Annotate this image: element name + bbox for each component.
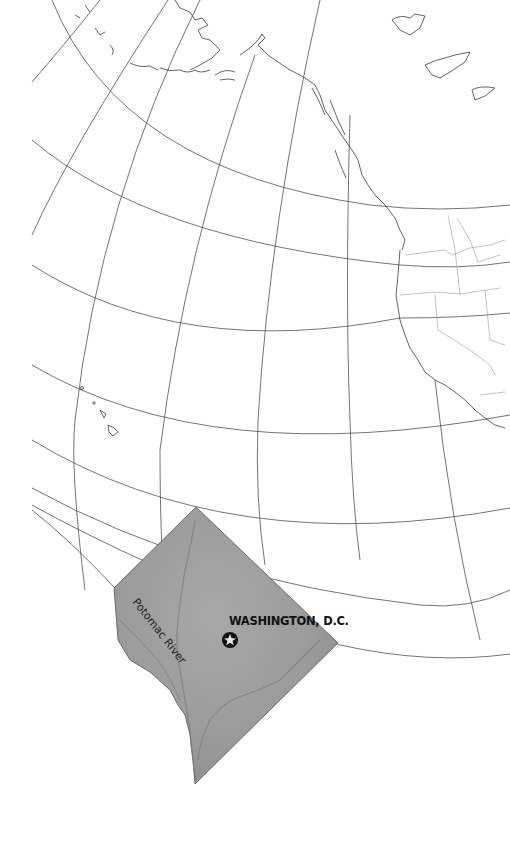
hawaii-islands — [81, 387, 119, 437]
graticule-parallels — [32, 0, 510, 658]
coastline-west-us — [396, 250, 505, 428]
canada-islands — [392, 14, 495, 100]
map-canvas: Potomac River WASHINGTON, D.C. — [0, 0, 510, 849]
graticule-meridians — [32, 0, 480, 640]
capital-star-icon — [222, 632, 238, 648]
coastline-alaska — [75, 0, 405, 250]
state-borders — [400, 215, 505, 395]
washington-dc-label: WASHINGTON, D.C. — [229, 614, 349, 628]
